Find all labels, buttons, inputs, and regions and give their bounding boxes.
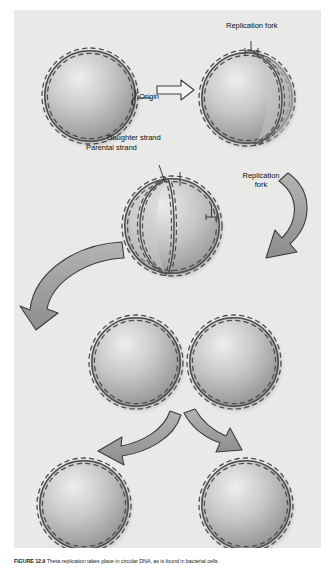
- arrow-large-curved-down-right: [20, 242, 124, 330]
- figure-caption: FIGURE 12.9 Theta replication takes plac…: [14, 558, 321, 570]
- figure-panel: Replication fork Origin Daughter strand …: [14, 10, 321, 548]
- arrow-straight-right: [157, 80, 194, 100]
- label-origin: Origin: [139, 93, 159, 102]
- figure-caption-text: Theta replication takes place in circula…: [47, 558, 220, 564]
- label-replication-fork-top: Replication fork: [226, 22, 278, 31]
- label-parental-strand: Parental strand: [86, 144, 137, 153]
- label-replication-fork-mid-line2: fork: [230, 181, 292, 190]
- label-daughter-strand: Daughter strand: [107, 134, 161, 143]
- figure-root: Replication fork Origin Daughter strand …: [0, 0, 329, 570]
- arrow-branch-left: [98, 411, 181, 465]
- arrow-branch-right: [184, 409, 242, 452]
- figure-number: FIGURE 12.9: [14, 558, 45, 564]
- diagram-canvas: [14, 10, 321, 548]
